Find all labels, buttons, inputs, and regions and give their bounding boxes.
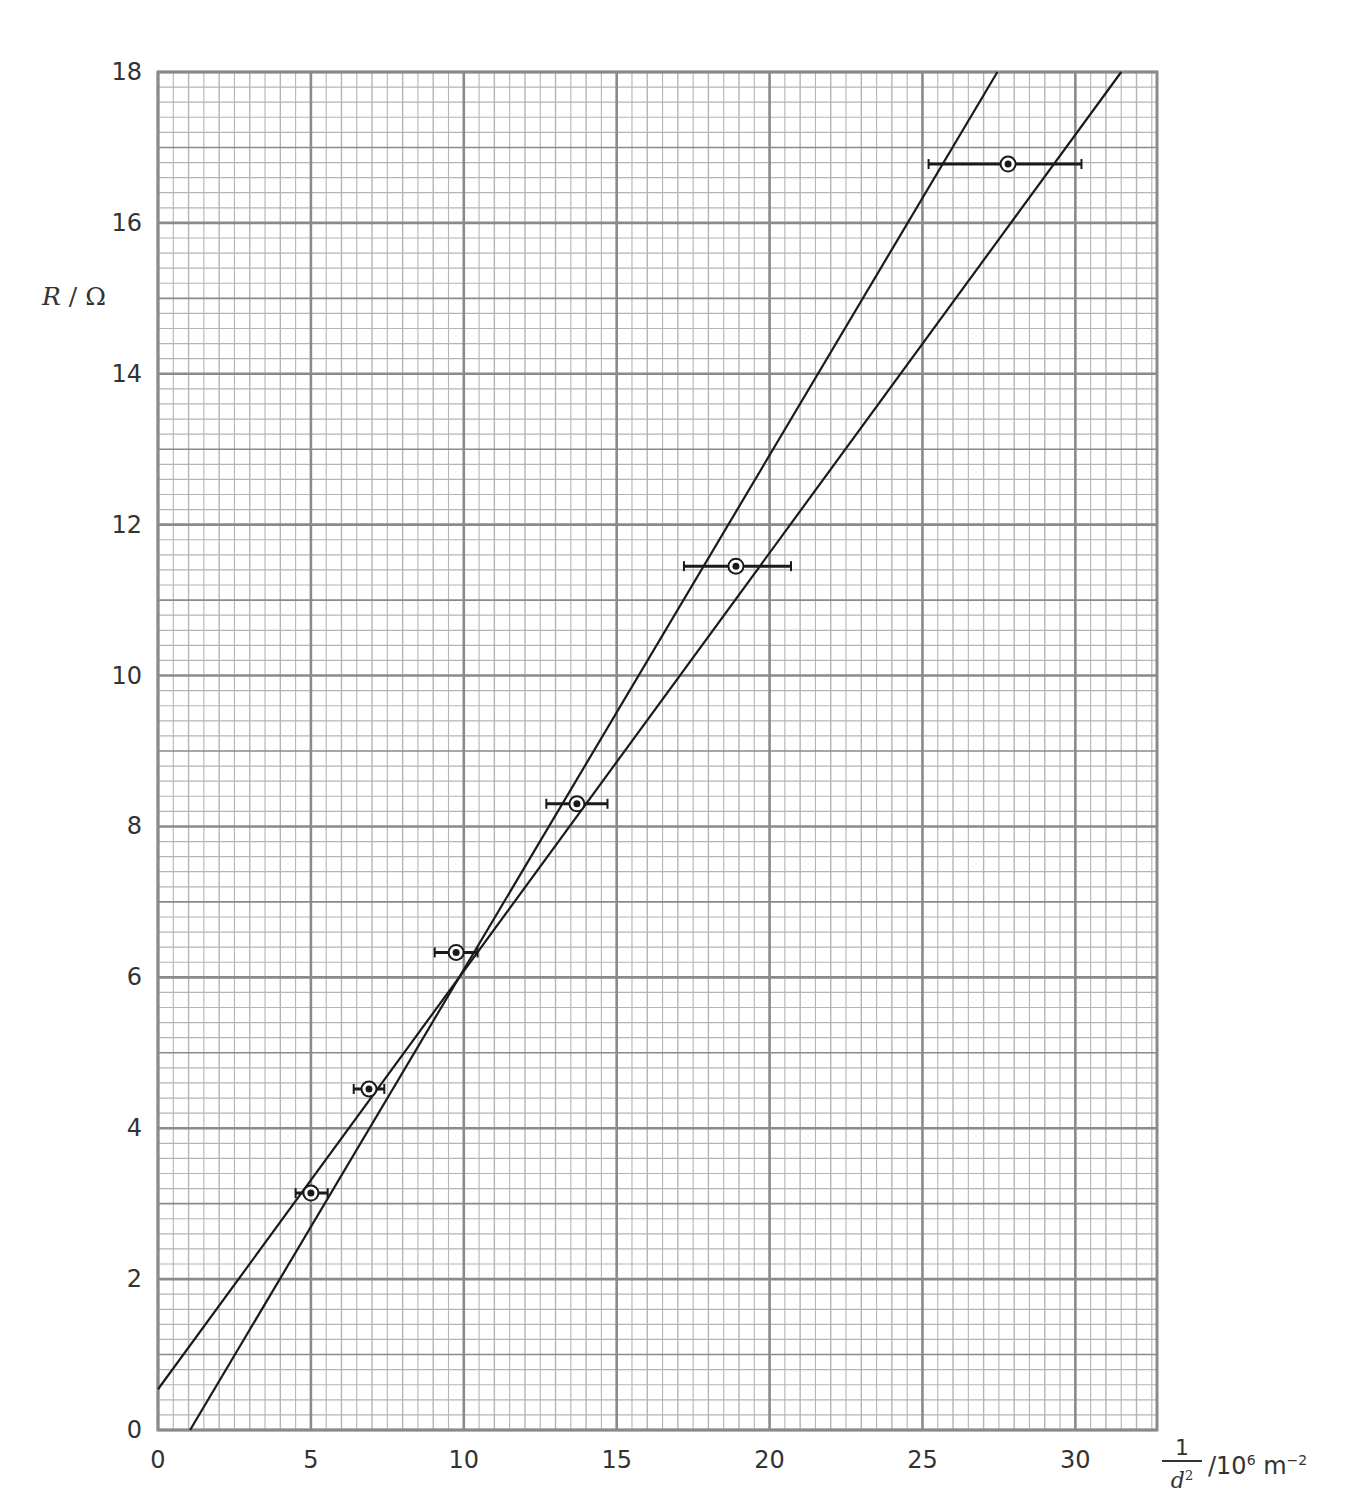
- unit-power: 6: [1247, 1452, 1256, 1468]
- y-tick-label: 18: [111, 58, 142, 86]
- x-axis-unit: /106 m−2: [1208, 1452, 1307, 1480]
- data-point-dot: [732, 563, 739, 570]
- x-tick-label: 20: [754, 1446, 785, 1474]
- x-tick-label: 0: [150, 1446, 165, 1474]
- y-tick-label: 16: [111, 209, 142, 237]
- chart-canvas: 051015202530 024681012141618: [0, 0, 1354, 1509]
- y-tick-label: 6: [127, 963, 142, 991]
- data-point-dot: [573, 800, 580, 807]
- y-tick-label: 4: [127, 1114, 142, 1142]
- x-axis-numerator: 1: [1175, 1436, 1189, 1460]
- y-tick-label: 12: [111, 511, 142, 539]
- x-tick-label: 10: [449, 1446, 480, 1474]
- x-tick-label: 15: [601, 1446, 632, 1474]
- denominator-power: 2: [1185, 1468, 1193, 1483]
- x-axis-tick-labels: 051015202530: [150, 1446, 1090, 1474]
- x-axis-denominator: d2: [1171, 1462, 1193, 1495]
- y-tick-label: 2: [127, 1265, 142, 1293]
- grid-mid: [158, 72, 1157, 1430]
- y-axis-tick-labels: 024681012141618: [111, 58, 142, 1444]
- x-tick-label: 5: [303, 1446, 318, 1474]
- x-tick-label: 30: [1060, 1446, 1091, 1474]
- data-point-dot: [453, 949, 460, 956]
- x-axis-label: 1 d2 /106 m−2: [1162, 1436, 1307, 1495]
- y-axis-symbol: R: [42, 282, 61, 311]
- y-tick-label: 8: [127, 812, 142, 840]
- y-tick-label: 10: [111, 662, 142, 690]
- unit-base: m: [1256, 1452, 1287, 1480]
- y-tick-label: 0: [127, 1416, 142, 1444]
- x-axis-fraction: 1 d2: [1162, 1436, 1202, 1495]
- denominator-symbol: d: [1171, 1468, 1185, 1493]
- x-tick-label: 25: [907, 1446, 938, 1474]
- data-point-dot: [1005, 161, 1012, 168]
- y-axis-label: R / Ω: [42, 282, 106, 311]
- y-axis-unit: / Ω: [61, 282, 106, 311]
- data-point-dot: [365, 1085, 372, 1092]
- y-tick-label: 14: [111, 360, 142, 388]
- data-point-dot: [307, 1190, 314, 1197]
- unit-exponent: −2: [1287, 1452, 1308, 1468]
- unit-prefix: /10: [1208, 1452, 1247, 1480]
- error-bars: [296, 159, 1082, 1198]
